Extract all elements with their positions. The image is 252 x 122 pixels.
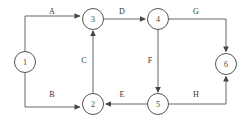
edge-h-label: H (193, 90, 199, 99)
node-2[interactable]: 2 (83, 94, 104, 115)
node-5-label: 5 (156, 100, 160, 109)
node-5[interactable]: 5 (148, 94, 169, 115)
graph-diagram: A B C D E F (0, 0, 252, 122)
node-6[interactable]: 6 (216, 54, 237, 75)
edge-d-label: D (119, 7, 125, 16)
node-3[interactable]: 3 (83, 9, 104, 30)
node-1-label: 1 (23, 58, 27, 67)
node-6-label: 6 (224, 60, 228, 69)
edge-a-label: A (49, 7, 55, 16)
edge-b-label: B (49, 90, 54, 99)
node-3-label: 3 (91, 15, 95, 24)
node-4-label: 4 (156, 15, 160, 24)
edge-g-label: G (193, 7, 199, 16)
node-2-label: 2 (91, 100, 95, 109)
edge-c-label: C (81, 56, 86, 65)
edge-e-label: E (120, 90, 125, 99)
edge-f-label: F (148, 56, 153, 65)
node-4[interactable]: 4 (148, 9, 169, 30)
node-1[interactable]: 1 (15, 52, 36, 73)
